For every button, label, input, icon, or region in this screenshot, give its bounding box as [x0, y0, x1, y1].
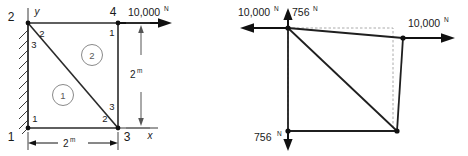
local-node-elem2-topright: 1	[109, 27, 114, 38]
force-top-left-vertical-label: 756 N	[292, 5, 318, 18]
applied-load-label: 10,000 N	[128, 5, 169, 18]
global-node-4-label: 4	[110, 5, 117, 19]
local-node-elem2-topleft: 2	[39, 28, 44, 39]
force-top-right-horizontal-arrow	[403, 33, 455, 43]
local-node-elem2-bottomright: 3	[109, 101, 114, 112]
applied-load-value: 10,000	[128, 6, 160, 18]
node-3-dot	[116, 126, 121, 131]
global-node-1-label: 1	[8, 130, 15, 144]
figure-root: 2 4 1 3 2 3 1 1 2 3 1 2 y x 10,000 N 2 m	[0, 0, 468, 156]
width-dimension-label: 2 m	[63, 136, 75, 149]
deformed-outline	[288, 28, 403, 131]
force-top-left-horizontal-arrow	[240, 23, 288, 33]
deformed-node-bottom-right-dot	[394, 128, 399, 133]
force-bottom-left-vertical-arrow	[283, 131, 292, 151]
force-top-left-horizontal-label: 10,000 N	[238, 5, 279, 18]
right-diagram: 10,000 N 756 N 756 N	[238, 5, 455, 151]
force-bottom-left-vertical-unit: N	[277, 130, 282, 137]
force-bottom-left-vertical-label: 756 N	[254, 130, 282, 143]
width-dimension-unit: m	[70, 136, 75, 143]
height-dimension-unit: m	[137, 67, 142, 74]
local-node-elem1-topleft: 3	[31, 39, 36, 50]
force-top-left-horizontal-value: 10,000	[238, 6, 270, 18]
local-node-elem1-bottomleft: 1	[32, 113, 37, 124]
fixed-support-hatching	[19, 23, 28, 134]
force-top-right-horizontal-label: 10,000 N	[408, 16, 449, 29]
element-2-label: 2	[89, 50, 94, 61]
left-diagram: 2 4 1 3 2 3 1 1 2 3 1 2 y x 10,000 N 2 m	[8, 5, 172, 150]
engineering-figure: 2 4 1 3 2 3 1 1 2 3 1 2 y x 10,000 N 2 m	[0, 0, 468, 156]
global-node-3-label: 3	[124, 130, 131, 144]
y-axis-label: y	[34, 6, 41, 17]
force-top-right-horizontal-value: 10,000	[408, 17, 440, 29]
force-top-right-horizontal-unit: N	[444, 16, 449, 23]
element-1-label: 1	[60, 90, 65, 101]
width-dimension-value: 2	[63, 138, 69, 149]
local-node-elem1-bottomright: 2	[102, 113, 107, 124]
node-1-dot	[26, 126, 31, 131]
force-top-left-vertical-unit: N	[313, 5, 318, 12]
force-top-left-horizontal-unit: N	[274, 5, 279, 12]
applied-load-unit: N	[164, 5, 169, 12]
x-axis-label: x	[147, 130, 154, 141]
force-bottom-left-vertical-value: 756	[254, 131, 272, 143]
node-2-dot	[26, 21, 31, 26]
global-node-2-label: 2	[8, 10, 15, 24]
height-dimension-value: 2	[130, 69, 136, 80]
height-dimension-label: 2 m	[130, 67, 142, 80]
force-top-left-vertical-value: 756	[292, 6, 310, 18]
